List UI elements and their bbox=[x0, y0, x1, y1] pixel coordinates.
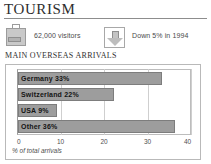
x-tick-label: 20 bbox=[101, 138, 108, 145]
stat-change-label: Down 5% in 1994 bbox=[132, 32, 188, 39]
bar-label: USA 9% bbox=[21, 104, 49, 117]
bar-row: Switzerland 22% bbox=[18, 88, 192, 101]
tourism-infographic: TOURISM 62,000 visitors Down 5% in 1994 … bbox=[0, 0, 211, 164]
bar-label: Germany 33% bbox=[21, 72, 70, 85]
x-axis-ticks: 010203040 bbox=[11, 138, 196, 147]
x-tick-label: 0 bbox=[17, 138, 21, 145]
suitcase-strap-icon bbox=[8, 37, 21, 42]
stats-row: 62,000 visitors Down 5% in 1994 bbox=[4, 22, 207, 49]
bar-label: Other 36% bbox=[21, 120, 57, 133]
down-arrow-head-icon bbox=[107, 38, 123, 46]
x-tick-label: 10 bbox=[57, 138, 64, 145]
x-axis-label: % of total arrivals bbox=[12, 147, 62, 154]
chart-panel: Germany 33%Switzerland 22%USA 9%Other 36… bbox=[5, 64, 201, 160]
bar-row: Other 36% bbox=[18, 120, 192, 133]
stat-visitors-label: 62,000 visitors bbox=[34, 32, 81, 39]
stat-visitors: 62,000 visitors bbox=[5, 22, 81, 49]
title-divider bbox=[4, 18, 207, 19]
bar-chart: Germany 33%Switzerland 22%USA 9%Other 36… bbox=[11, 69, 196, 137]
bar-label: Switzerland 22% bbox=[21, 88, 79, 101]
page-title: TOURISM bbox=[4, 1, 207, 17]
x-tick-label: 40 bbox=[184, 138, 191, 145]
bar-row: USA 9% bbox=[18, 104, 192, 117]
chart-section-heading: MAIN OVERSEAS ARRIVALS bbox=[5, 51, 117, 60]
title-block: TOURISM bbox=[4, 1, 207, 19]
stat-change: Down 5% in 1994 bbox=[103, 22, 188, 49]
suitcase-icon bbox=[5, 24, 28, 48]
down-arrow-icon bbox=[103, 24, 126, 48]
bar-row: Germany 33% bbox=[18, 72, 192, 85]
x-tick-label: 30 bbox=[144, 138, 151, 145]
down-arrow-frame-icon bbox=[104, 27, 125, 48]
